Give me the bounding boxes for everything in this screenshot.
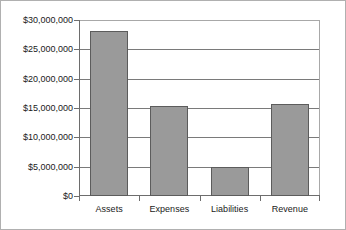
x-axis-tick-mark bbox=[319, 196, 320, 201]
x-axis-tick-mark bbox=[260, 196, 261, 201]
bars-layer bbox=[79, 20, 320, 196]
x-axis-tick-label: Liabilities bbox=[211, 203, 248, 215]
x-axis-tick-mark bbox=[79, 196, 80, 201]
x-axis-tick-mark bbox=[200, 196, 201, 201]
x-axis-tick-label: Assets bbox=[96, 203, 123, 215]
x-axis-labels: AssetsExpensesLiabilitiesRevenue bbox=[79, 203, 320, 217]
bar-expenses bbox=[150, 106, 188, 196]
bar-chart-image: $0$5,000,000$10,000,000$15,000,000$20,00… bbox=[0, 0, 346, 230]
bar-liabilities bbox=[211, 167, 249, 196]
y-axis-ticks bbox=[0, 20, 79, 196]
x-axis-tick-mark bbox=[139, 196, 140, 201]
bar-assets bbox=[90, 31, 128, 196]
x-axis-tick-label: Revenue bbox=[272, 203, 308, 215]
x-axis-tick-label: Expenses bbox=[150, 203, 190, 215]
x-axis-ticks bbox=[79, 196, 320, 202]
bar-revenue bbox=[271, 104, 309, 196]
